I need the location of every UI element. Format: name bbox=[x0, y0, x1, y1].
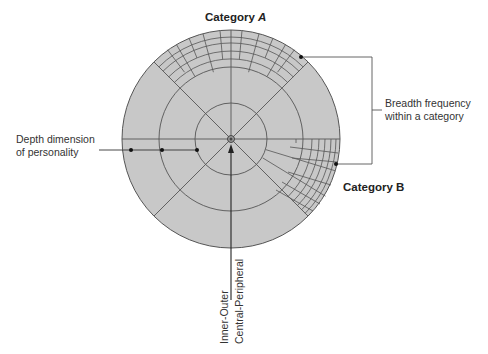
breadth-label-line2: within a category bbox=[385, 110, 471, 123]
category-a-letter: A bbox=[258, 11, 266, 23]
depth-label: Depth dimension of personality bbox=[16, 133, 95, 159]
category-b-text: Category B bbox=[343, 181, 404, 193]
depth-dot-3 bbox=[195, 148, 199, 152]
depth-label-line2: of personality bbox=[16, 146, 95, 159]
breadth-label-line1: Breadth frequency bbox=[385, 97, 471, 110]
category-a-text: Category bbox=[205, 11, 255, 23]
breadth-label: Breadth frequency within a category bbox=[385, 97, 471, 123]
breadth-dot-top bbox=[299, 55, 303, 59]
breadth-dot-bottom bbox=[334, 162, 338, 166]
depth-dot-1 bbox=[129, 148, 133, 152]
central-peripheral-label: Central-Peripheral bbox=[233, 259, 245, 344]
depth-label-line1: Depth dimension bbox=[16, 133, 95, 146]
category-b-label: Category B bbox=[343, 181, 404, 194]
depth-dot-2 bbox=[160, 148, 164, 152]
inner-outer-label: Inner-Outer bbox=[218, 290, 230, 344]
category-a-label: Category A bbox=[205, 11, 266, 24]
